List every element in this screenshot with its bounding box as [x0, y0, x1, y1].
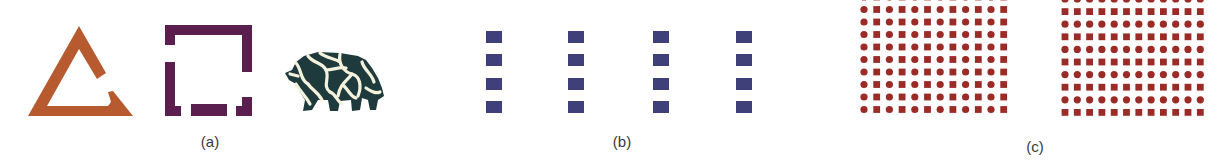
grid-dot-square [1099, 109, 1106, 116]
grid-dot-circle [886, 31, 893, 38]
grid-dot-square [1099, 84, 1106, 91]
grid-dot-circle [860, 0, 867, 1]
grid-dot-circle [886, 81, 893, 88]
grid-dot-square [873, 81, 880, 88]
grid-dot-square [1148, 33, 1155, 40]
grid-dot-circle [886, 68, 893, 75]
grid-dot-square [1000, 69, 1007, 76]
grid-dot-circle [1172, 96, 1179, 103]
grid-dot-circle [937, 43, 944, 50]
grid-dot-circle [1123, 71, 1130, 78]
grid-dot-square [1062, 84, 1069, 91]
grid-dot-circle [1172, 71, 1179, 78]
grid-dot-square [950, 44, 957, 51]
grid-dot-square [873, 106, 880, 113]
grid-dot-square [1172, 109, 1179, 116]
grid-dot-circle [911, 43, 918, 50]
grid-dot-circle [860, 81, 867, 88]
grid-dot-circle [987, 31, 994, 38]
grid-dot-circle [1148, 71, 1155, 78]
grid-square [568, 78, 584, 90]
grid-dot-circle [1160, 46, 1167, 53]
grid-dot-square [975, 94, 982, 101]
grid-dot-square [1123, 109, 1130, 116]
grid-dot-circle [860, 18, 867, 25]
grid-square [486, 101, 502, 113]
grid-dot-circle [1148, 21, 1155, 28]
grid-dot-square [1062, 109, 1069, 116]
grid-dot-circle [886, 18, 893, 25]
grid-dot-circle [1074, 46, 1081, 53]
grid-dot-circle [1197, 21, 1204, 28]
grid-dot-circle [1098, 46, 1105, 53]
grid-dot-circle [886, 43, 893, 50]
grid-dot-circle [1086, 46, 1093, 53]
grid-dot-circle [911, 31, 918, 38]
grid-square [653, 54, 669, 66]
panel-c-row-grid [1061, 0, 1204, 116]
grid-dot-square [924, 69, 931, 76]
grid-dot-square [1074, 84, 1081, 91]
grid-dot-square [899, 81, 906, 88]
grid-dot-circle [937, 0, 944, 1]
grid-dot-circle [886, 56, 893, 63]
grid-dot-circle [911, 18, 918, 25]
grid-dot-circle [1135, 21, 1142, 28]
grid-dot-square [975, 44, 982, 51]
grid-dot-circle [937, 18, 944, 25]
grid-square [736, 54, 752, 66]
grid-dot-square [1185, 59, 1192, 66]
grid-dot-circle [1172, 21, 1179, 28]
grid-square [568, 54, 584, 66]
grid-dot-circle [987, 106, 994, 113]
grid-dot-circle [911, 56, 918, 63]
grid-dot-circle [1123, 96, 1130, 103]
grid-dot-square [1111, 8, 1118, 15]
grid-dot-square [924, 94, 931, 101]
grid-dot-square [1074, 109, 1081, 116]
grid-dot-circle [962, 106, 969, 113]
grid-dot-circle [1074, 96, 1081, 103]
grid-square [486, 54, 502, 66]
grid-dot-circle [860, 6, 867, 13]
grid-dot-square [1185, 109, 1192, 116]
grid-dot-circle [1123, 46, 1130, 53]
grid-dot-circle [962, 6, 969, 13]
grid-dot-square [873, 44, 880, 51]
grid-dot-square [873, 6, 880, 13]
grid-dot-square [1135, 109, 1142, 116]
grid-dot-square [950, 69, 957, 76]
grid-dot-square [1000, 81, 1007, 88]
grid-dot-circle [1111, 46, 1118, 53]
square-bottom-right-segment [236, 97, 252, 116]
grid-dot-circle [1086, 21, 1093, 28]
grid-dot-square [1172, 84, 1179, 91]
grid-dot-square [1074, 8, 1081, 15]
grid-dot-circle [1197, 96, 1204, 103]
grid-dot-circle [1184, 0, 1191, 3]
grid-dot-square [1000, 56, 1007, 63]
triangle-upper-right-segment [79, 26, 106, 79]
grid-dot-circle [962, 56, 969, 63]
grid-dot-circle [1135, 71, 1142, 78]
grid-dot-circle [911, 0, 918, 1]
grid-dot-square [1123, 59, 1130, 66]
grid-dot-circle [1160, 21, 1167, 28]
grid-dot-square [950, 6, 957, 13]
grid-dot-circle [911, 93, 918, 100]
grid-dot-circle [860, 68, 867, 75]
grid-dot-circle [1074, 71, 1081, 78]
grid-dot-square [1197, 8, 1204, 15]
grid-dot-square [1111, 84, 1118, 91]
grid-dot-circle [1135, 46, 1142, 53]
camouflaged-bear [285, 52, 384, 111]
grid-dot-square [924, 56, 931, 63]
grid-dot-circle [1098, 96, 1105, 103]
grid-dot-square [924, 31, 931, 38]
grid-dot-square [1086, 59, 1093, 66]
grid-dot-circle [962, 18, 969, 25]
grid-dot-square [899, 69, 906, 76]
grid-dot-square [1099, 33, 1106, 40]
grid-dot-circle [1061, 0, 1068, 3]
grid-dot-circle [1061, 71, 1068, 78]
